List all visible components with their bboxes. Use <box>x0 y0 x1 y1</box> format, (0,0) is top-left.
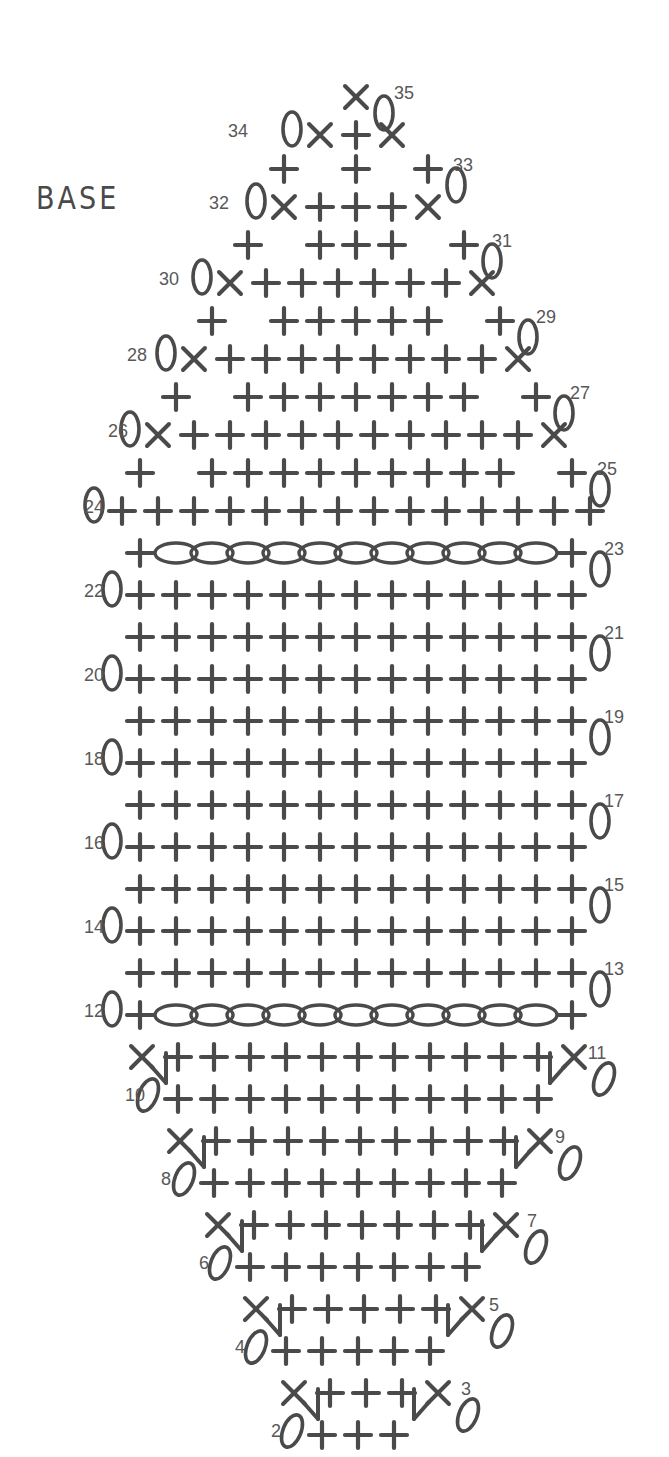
row-number-26: 26 <box>108 421 128 442</box>
row-number-5: 5 <box>489 1295 499 1316</box>
stitch-row <box>127 960 609 1006</box>
row-number-11: 11 <box>588 1043 607 1064</box>
chain-stitch-symbol <box>103 908 121 942</box>
stitch-row <box>163 384 573 430</box>
chain-stitch-symbol <box>169 1160 198 1198</box>
chain-stitch-symbol <box>453 1396 482 1434</box>
chain-stitch-symbol <box>487 1312 516 1350</box>
stitch-row <box>133 1076 551 1114</box>
stitch-row <box>127 708 609 754</box>
chain-stitch-symbol <box>555 1144 584 1182</box>
stitch-row <box>271 156 465 202</box>
stitch-row <box>103 824 585 860</box>
decrease-leg <box>516 1150 531 1167</box>
stitch-row <box>199 308 537 354</box>
stitch-row <box>169 1128 585 1182</box>
row-number-12: 12 <box>84 1001 104 1022</box>
stitch-row <box>103 908 585 944</box>
chain-stitch-symbol <box>277 1412 306 1450</box>
stitch-row <box>283 1380 483 1434</box>
row-number-24: 24 <box>84 497 104 518</box>
stitch-row <box>277 1412 407 1450</box>
stitch-row <box>103 740 585 776</box>
row-number-4: 4 <box>235 1337 245 1358</box>
stitch-row <box>193 260 493 296</box>
stitch-row <box>103 992 585 1028</box>
row-number-34: 34 <box>228 121 248 142</box>
row-number-8: 8 <box>161 1169 171 1190</box>
stitch-row <box>85 488 603 524</box>
row-number-7: 7 <box>527 1211 537 1232</box>
chain-stitch-symbol <box>103 656 121 690</box>
stitch-row <box>345 86 393 130</box>
stitch-row <box>205 1244 479 1282</box>
stitch-row <box>127 624 609 670</box>
row-number-2: 2 <box>271 1421 281 1442</box>
row-number-9: 9 <box>555 1127 565 1148</box>
base-title-label: BASE <box>36 180 119 217</box>
stitch-row <box>235 232 501 278</box>
row-number-28: 28 <box>127 345 147 366</box>
stitch-row <box>103 572 585 608</box>
decrease-leg <box>448 1318 463 1335</box>
decrease-leg <box>265 1318 280 1335</box>
stitch-row <box>127 792 609 838</box>
chain-stitch-symbol <box>103 740 121 774</box>
row-number-16: 16 <box>84 833 104 854</box>
stitch-row <box>127 460 609 506</box>
stitch-row <box>131 1044 619 1098</box>
row-number-21: 21 <box>604 623 624 644</box>
stitch-row <box>207 1212 551 1266</box>
row-number-13: 13 <box>604 959 624 980</box>
chain-stitch-symbol <box>247 184 265 218</box>
row-number-15: 15 <box>604 875 624 896</box>
row-number-25: 25 <box>597 459 617 480</box>
row-number-18: 18 <box>84 749 104 770</box>
decrease-leg <box>482 1234 497 1251</box>
row-number-10: 10 <box>125 1085 145 1106</box>
chain-stitch-symbol <box>103 992 121 1026</box>
row-number-3: 3 <box>461 1379 471 1400</box>
row-number-33: 33 <box>453 155 473 176</box>
chain-stitch-symbol <box>193 260 211 294</box>
decrease-leg <box>303 1402 318 1419</box>
row-number-35: 35 <box>394 83 414 104</box>
chain-stitch-symbol <box>205 1244 234 1282</box>
row-number-14: 14 <box>84 917 104 938</box>
stitch-row <box>241 1328 443 1366</box>
decrease-leg <box>550 1066 565 1083</box>
chain-stitch-symbol <box>103 572 121 606</box>
stitch-row <box>127 540 609 586</box>
stitch-row <box>127 876 609 922</box>
row-number-17: 17 <box>604 791 624 812</box>
stitch-row <box>169 1160 515 1198</box>
row-number-29: 29 <box>536 307 556 328</box>
chain-stitch-symbol <box>589 1060 618 1098</box>
row-number-20: 20 <box>84 665 104 686</box>
chain-stitch-symbol <box>241 1328 270 1366</box>
stitch-symbol-canvas <box>0 0 669 1457</box>
chain-stitch-symbol <box>521 1228 550 1266</box>
row-number-31: 31 <box>492 231 512 252</box>
row-number-23: 23 <box>604 539 624 560</box>
row-number-6: 6 <box>199 1253 209 1274</box>
stitch-row <box>121 412 565 448</box>
row-number-30: 30 <box>159 269 179 290</box>
chain-stitch-symbol <box>283 112 301 146</box>
row-number-32: 32 <box>209 193 229 214</box>
row-number-27: 27 <box>570 383 590 404</box>
row-number-19: 19 <box>604 707 624 728</box>
chain-stitch-symbol <box>103 824 121 858</box>
stitch-row <box>157 336 529 372</box>
stitch-row <box>247 184 439 220</box>
row-number-22: 22 <box>84 581 104 602</box>
decrease-leg <box>414 1402 429 1419</box>
crochet-chart-diagram: BASE 12345678910111213141516171819202122… <box>0 0 669 1457</box>
stitch-row <box>103 656 585 692</box>
chain-stitch-symbol <box>157 336 175 370</box>
